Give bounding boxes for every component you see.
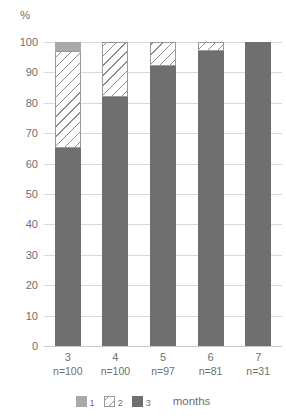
bar-segment-series-2[interactable] [150, 42, 176, 66]
x-axis-tick-label: 5n=97 [136, 350, 190, 378]
stacked-bar-chart: % 1009080706050403020100 3n=1004n=1005n=… [0, 0, 286, 418]
bar-segment-series-1[interactable] [55, 42, 81, 51]
bar-segment-series-3[interactable] [245, 42, 271, 346]
y-axis-tick-label: 60 [26, 158, 38, 169]
bar-column[interactable] [245, 42, 271, 346]
bar-segment-series-2[interactable] [102, 42, 128, 97]
legend-swatch-dark-gray-square [132, 396, 143, 407]
bar-column[interactable] [198, 42, 224, 346]
y-axis-unit-label: % [20, 9, 30, 21]
bar-column[interactable] [150, 42, 176, 346]
bar-segment-series-3[interactable] [55, 148, 81, 346]
x-axis-sample-size: n=31 [231, 364, 285, 378]
chart-legend: 123months [0, 391, 286, 411]
y-axis-tick-label: 70 [26, 128, 38, 139]
bar-segment-series-3[interactable] [198, 51, 224, 346]
legend-item[interactable]: 3 [132, 396, 151, 407]
legend-item-label: 3 [146, 399, 151, 408]
x-axis-title: months [173, 395, 211, 407]
y-axis-tick-label: 20 [26, 280, 38, 291]
bar-column[interactable] [55, 42, 81, 346]
bar-segment-series-3[interactable] [102, 97, 128, 346]
x-axis-tick-label: 4n=100 [88, 350, 142, 378]
bar-column[interactable] [102, 42, 128, 346]
x-axis-tick-label: 6n=81 [184, 350, 238, 378]
bar-segment-series-2[interactable] [55, 51, 81, 148]
x-axis-category: 4 [88, 350, 142, 364]
x-axis-tick-label: 3n=100 [41, 350, 95, 378]
plot-area: 1009080706050403020100 [44, 42, 282, 346]
y-axis-tick-label: 30 [26, 249, 38, 260]
x-axis-category: 7 [231, 350, 285, 364]
y-axis-tick-label: 40 [26, 219, 38, 230]
legend-item-label: 2 [118, 399, 123, 408]
legend-swatch-light-gray-square [76, 396, 87, 407]
x-axis-labels: 3n=1004n=1005n=976n=817n=31 [44, 350, 282, 384]
y-axis-tick-label: 90 [26, 67, 38, 78]
legend-item-label: 1 [90, 399, 95, 408]
bar-segment-series-2[interactable] [198, 42, 224, 51]
y-axis-tick-label: 10 [26, 310, 38, 321]
x-axis-category: 3 [41, 350, 95, 364]
y-axis-tick-label: 50 [26, 189, 38, 200]
y-axis-tick-label: 0 [32, 341, 38, 352]
x-axis-sample-size: n=100 [88, 364, 142, 378]
x-axis-sample-size: n=81 [184, 364, 238, 378]
x-axis-sample-size: n=97 [136, 364, 190, 378]
x-axis-sample-size: n=100 [41, 364, 95, 378]
x-axis-category: 6 [184, 350, 238, 364]
legend-item[interactable]: 2 [104, 396, 123, 407]
gridline [44, 346, 282, 347]
y-axis-tick-label: 80 [26, 97, 38, 108]
x-axis-tick-label: 7n=31 [231, 350, 285, 378]
x-axis-category: 5 [136, 350, 190, 364]
bar-segment-series-3[interactable] [150, 66, 176, 346]
legend-swatch-hatched-square [104, 396, 115, 407]
legend-item[interactable]: 1 [76, 396, 95, 407]
y-axis-tick-label: 100 [20, 37, 38, 48]
